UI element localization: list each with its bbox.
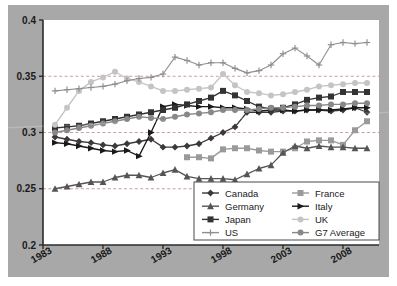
data-point-marker — [208, 95, 214, 101]
data-point-marker — [364, 80, 370, 86]
data-point-marker — [124, 116, 130, 122]
legend-label: UK — [315, 214, 329, 225]
data-point-marker — [184, 87, 190, 93]
data-point-marker — [52, 122, 58, 128]
data-point-marker — [220, 88, 226, 94]
data-point-marker — [256, 106, 262, 112]
data-point-marker — [220, 107, 226, 113]
data-point-marker — [196, 86, 202, 92]
data-point-marker — [316, 95, 322, 101]
data-point-marker — [184, 112, 190, 118]
data-point-marker — [268, 149, 274, 155]
data-point-marker — [220, 146, 226, 152]
data-point-marker — [298, 190, 304, 196]
data-point-marker — [76, 125, 82, 131]
data-point-marker — [244, 145, 250, 151]
data-point-marker — [256, 148, 262, 154]
data-point-marker — [148, 83, 154, 89]
data-point-marker — [292, 104, 298, 110]
data-point-marker — [208, 109, 214, 115]
data-point-marker — [112, 69, 118, 75]
data-point-marker — [232, 92, 238, 98]
data-point-marker — [148, 109, 154, 115]
legend-label: US — [225, 227, 238, 238]
data-point-marker — [268, 92, 274, 98]
data-point-marker — [280, 105, 286, 111]
data-point-marker — [184, 154, 190, 160]
data-point-marker — [244, 98, 250, 104]
data-point-marker — [268, 105, 274, 111]
x-axis-tick-label: 1993 — [149, 244, 174, 265]
data-point-marker — [352, 80, 358, 86]
data-point-marker — [328, 137, 334, 143]
data-point-marker — [88, 123, 94, 129]
data-point-marker — [352, 89, 358, 95]
x-axis-tick-label: 2003 — [269, 244, 294, 265]
data-point-marker — [184, 101, 190, 107]
data-point-marker — [232, 82, 238, 88]
data-point-marker — [100, 121, 106, 127]
data-point-marker — [298, 216, 304, 222]
data-point-marker — [340, 81, 346, 87]
data-point-marker — [172, 88, 178, 94]
data-point-marker — [64, 105, 70, 111]
data-point-marker — [220, 71, 226, 77]
data-point-marker — [232, 107, 238, 113]
data-point-marker — [352, 100, 358, 106]
data-point-marker — [304, 103, 310, 109]
y-axis-tick-label: 0.4 — [22, 15, 36, 26]
legend-label: Germany — [225, 201, 264, 212]
data-point-marker — [52, 130, 58, 136]
data-point-marker — [172, 105, 178, 111]
data-point-marker — [304, 87, 310, 93]
data-point-marker — [292, 89, 298, 95]
data-point-marker — [304, 97, 310, 103]
chart-screenshot: 0.20.250.30.350.419831988199319982003200… — [0, 0, 397, 286]
data-point-marker — [256, 90, 262, 96]
data-point-marker — [316, 83, 322, 89]
data-point-marker — [232, 145, 238, 151]
y-axis-tick-label: 0.35 — [17, 71, 37, 82]
data-point-marker — [364, 89, 370, 95]
data-point-marker — [328, 82, 334, 88]
data-point-marker — [328, 101, 334, 107]
legend-label: France — [315, 188, 345, 199]
legend-label: Italy — [315, 201, 333, 212]
data-point-marker — [208, 216, 214, 222]
data-point-marker — [244, 89, 250, 95]
data-point-marker — [208, 155, 214, 161]
data-point-marker — [196, 110, 202, 116]
data-point-marker — [304, 139, 310, 145]
data-point-marker — [298, 230, 304, 236]
data-point-marker — [340, 101, 346, 107]
data-point-marker — [280, 91, 286, 97]
data-point-marker — [88, 79, 94, 85]
x-axis-tick-label: 2008 — [329, 244, 354, 265]
data-point-marker — [160, 88, 166, 94]
data-point-marker — [244, 107, 250, 113]
data-point-marker — [160, 116, 166, 122]
y-axis-tick-label: 0.25 — [17, 183, 37, 194]
data-point-marker — [172, 114, 178, 120]
data-point-marker — [364, 118, 370, 124]
data-point-marker — [352, 127, 358, 133]
data-point-marker — [364, 100, 370, 106]
data-point-marker — [316, 103, 322, 109]
plot-container: 0.20.250.30.350.419831988199319982003200… — [0, 0, 397, 286]
line-chart: 0.20.250.30.350.419831988199319982003200… — [0, 0, 397, 286]
data-point-marker — [196, 98, 202, 104]
data-point-marker — [208, 85, 214, 91]
legend-label: Canada — [225, 188, 259, 199]
chart-legend: CanadaFranceGermanyItalyJapanUKUSG7 Aver… — [194, 182, 379, 240]
data-point-marker — [160, 107, 166, 113]
data-point-marker — [340, 89, 346, 95]
x-axis-tick-label: 1988 — [89, 244, 114, 265]
data-point-marker — [136, 114, 142, 120]
x-axis-tick-label: 1998 — [209, 244, 234, 265]
y-axis-tick-label: 0.2 — [22, 240, 36, 251]
data-point-marker — [112, 118, 118, 124]
y-axis-tick-label: 0.3 — [22, 127, 36, 138]
data-point-marker — [328, 94, 334, 100]
data-point-marker — [148, 115, 154, 121]
data-point-marker — [100, 74, 106, 80]
